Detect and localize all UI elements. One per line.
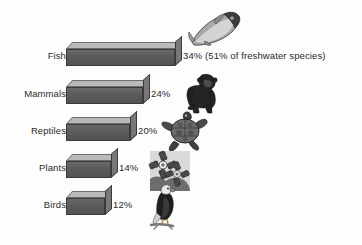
bar-chart: Fish 34% (51% of freshwater species) <box>0 0 362 245</box>
bar-side-face <box>130 111 137 141</box>
chart-row-mammals: Mammals 24% <box>0 76 362 116</box>
category-label-birds: Birds <box>44 199 66 210</box>
bar-top-face <box>66 154 117 161</box>
bar-side-face <box>111 148 118 178</box>
value-label-mammals: 24% <box>151 88 170 99</box>
bar-mammals <box>66 80 143 106</box>
bar-front-face <box>66 124 130 141</box>
bar-top-face <box>66 117 136 124</box>
category-label-plants: Plants <box>39 162 66 173</box>
chart-row-birds: Birds 12% <box>0 187 362 227</box>
bar-side-face <box>175 36 182 66</box>
value-label-fish: 34% (51% of freshwater species) <box>183 50 326 61</box>
bar-plants <box>66 154 111 180</box>
bar-front-face <box>66 49 175 66</box>
turtle-icon <box>160 111 210 153</box>
value-label-plants: 14% <box>119 162 138 173</box>
bar-top-face <box>66 42 181 49</box>
value-label-birds: 12% <box>113 199 132 210</box>
category-label-mammals: Mammals <box>24 88 66 99</box>
bar-front-face <box>66 161 111 178</box>
chart-row-reptiles: Reptiles 20% <box>0 113 362 153</box>
category-label-fish: Fish <box>48 50 66 61</box>
bar-reptiles <box>66 117 130 143</box>
bar-side-face <box>105 185 112 215</box>
gorilla-icon <box>175 72 223 116</box>
value-label-reptiles: 20% <box>138 125 157 136</box>
bar-front-face <box>66 87 143 104</box>
bar-front-face <box>66 198 105 215</box>
bar-birds <box>66 191 105 217</box>
eagle-icon <box>143 183 187 231</box>
category-label-reptiles: Reptiles <box>31 125 66 136</box>
bar-side-face <box>143 74 150 104</box>
fish-icon <box>188 8 244 50</box>
bar-fish <box>66 42 175 68</box>
bar-top-face <box>66 80 149 87</box>
